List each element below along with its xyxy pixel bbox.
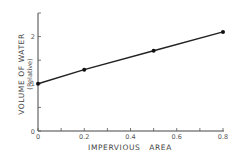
x-axis-title: IMPERVIOUS AREA	[88, 143, 172, 152]
x-tick-label: 0	[36, 133, 40, 141]
data-point	[152, 49, 156, 53]
x-tick-label: 0.2	[79, 133, 89, 141]
ticks: 00.20.40.60.8012	[31, 33, 228, 141]
y-axis-title: VOLUME OF WATER	[17, 33, 26, 114]
x-tick-label: 0.8	[218, 133, 228, 141]
x-tick-label: 0.4	[125, 133, 135, 141]
y-axis-subtitle: (Relative)	[26, 58, 34, 89]
x-tick-label: 0.6	[172, 133, 182, 141]
data-point	[221, 30, 225, 34]
y-tick-label: 0	[31, 128, 35, 136]
series-line	[38, 32, 223, 84]
axes	[38, 13, 224, 131]
data-point	[82, 68, 86, 72]
data-point	[36, 82, 40, 86]
chart: 00.20.40.60.8012 IMPERVIOUS AREA VOLUME …	[0, 0, 240, 156]
y-tick-label: 2	[31, 33, 35, 41]
marks	[36, 30, 225, 86]
